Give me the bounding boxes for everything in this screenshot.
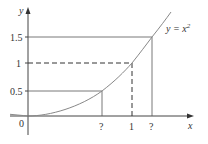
x-tick-label-unknown-2: ? xyxy=(149,121,154,132)
parabola-curve xyxy=(10,12,171,116)
guide-y-1-dashed xyxy=(28,63,132,116)
x-tick-label-1: 1 xyxy=(129,121,134,132)
guide-y-0.5 xyxy=(28,91,102,116)
y-tick-label-1.5: 1.5 xyxy=(10,32,23,43)
parabola-diagram: 1.5 1 0.5 0 y x ? 1 ? y = x2 xyxy=(0,0,208,144)
x-axis-arrow-icon xyxy=(187,114,194,119)
origin-label: 0 xyxy=(19,118,24,129)
y-tick-label-0.5: 0.5 xyxy=(10,86,23,97)
y-tick-label-1: 1 xyxy=(16,58,21,69)
x-axis-label: x xyxy=(187,120,193,131)
y-axis-arrow-icon xyxy=(26,7,31,14)
guide-y-1.5 xyxy=(28,37,152,116)
y-axis-label: y xyxy=(18,5,24,16)
function-label: y = x2 xyxy=(165,22,191,34)
x-tick-label-unknown-1: ? xyxy=(99,121,104,132)
